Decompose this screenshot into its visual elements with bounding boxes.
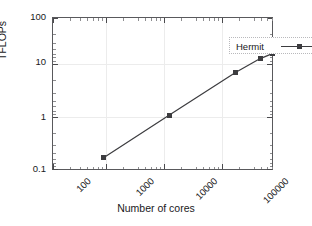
data-point [101, 155, 106, 160]
series-line-hermit [103, 54, 272, 158]
legend-sample-marker [297, 44, 302, 49]
legend: Hermit [229, 37, 312, 54]
data-point [233, 70, 238, 75]
y-tick-label-100: 100 [12, 12, 46, 22]
x-tick-label-100: 100 [75, 176, 93, 194]
data-point [258, 56, 263, 61]
y-tick-label-0.1: 0.1 [12, 164, 46, 174]
legend-entry-label: Hermit [236, 41, 264, 52]
x-axis-title: Number of cores [0, 203, 312, 214]
y-tick-label-10: 10 [12, 57, 46, 67]
x-tick-label-1000: 1000 [134, 176, 156, 198]
x-tick-label-10000: 10000 [194, 176, 220, 202]
y-axis-title: TFLOPs [0, 21, 8, 60]
x-tick-label-100000: 100000 [261, 176, 290, 205]
plot-area: Hermit [52, 17, 273, 170]
legend-entry-sample [281, 38, 312, 53]
chart-figure: 100 10 1 0.1 TFLOPs 100 1000 10000 10000… [0, 0, 312, 226]
y-tick-label-1: 1 [12, 112, 46, 122]
data-point [167, 113, 172, 118]
